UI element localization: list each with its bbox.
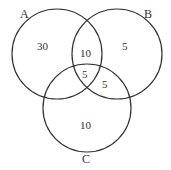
label-b: B	[144, 7, 152, 21]
region-c-only: 10	[80, 119, 92, 131]
region-a-only: 30	[37, 40, 49, 52]
label-c: C	[82, 152, 90, 166]
venn-diagram: A B C 30 10 5 5 5 10	[0, 0, 171, 170]
region-b-and-c: 5	[102, 78, 108, 90]
region-a-and-b: 10	[80, 47, 92, 59]
label-a: A	[20, 7, 29, 21]
region-b-only: 5	[122, 40, 128, 52]
region-a-b-c: 5	[82, 68, 88, 80]
